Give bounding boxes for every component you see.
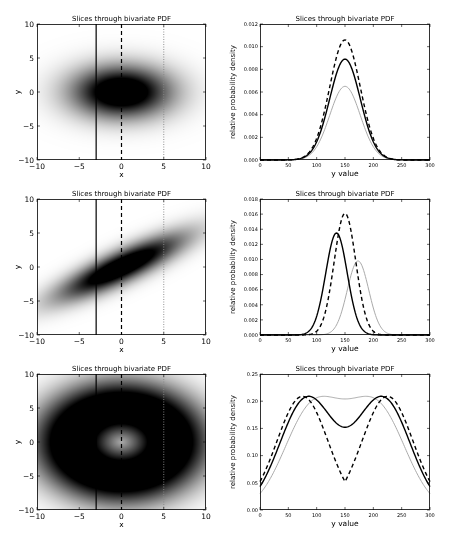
x-tick-label: 150 xyxy=(340,337,350,343)
y-tick-label: 0.15 xyxy=(247,425,258,431)
chart-title: Slices through bivariate PDF xyxy=(72,190,171,198)
y-tick-label: 0.008 xyxy=(244,66,258,72)
x-axis-label: x xyxy=(119,520,124,529)
x-axis-label: y value xyxy=(331,169,359,178)
chart-title: Slices through bivariate PDF xyxy=(296,190,395,198)
y-tick-label: 0.10 xyxy=(247,452,258,458)
y-tick-label: −5 xyxy=(23,297,34,306)
y-axis-label: relative probability density xyxy=(229,220,237,314)
x-tick-label: 300 xyxy=(425,337,435,343)
x-tick-label: 200 xyxy=(369,162,379,168)
x-tick-label: 0 xyxy=(258,512,261,518)
y-tick-label: 0.002 xyxy=(244,134,258,140)
y-tick-label: 0.006 xyxy=(244,286,258,292)
line-chart-panel-row-2: 0501001502002503000.000.050.100.150.200.… xyxy=(228,360,448,538)
x-tick-label: 50 xyxy=(285,337,291,343)
y-tick-label: 0 xyxy=(29,88,34,97)
x-tick-label: 200 xyxy=(369,337,379,343)
heatmap-panel-row-1: −10−50510−10−50510Slices through bivaria… xyxy=(0,185,229,361)
heatmap-panel-row-0: −10−50510−10−50510Slices through bivaria… xyxy=(0,10,229,186)
y-tick-label: −10 xyxy=(18,331,34,340)
y-tick-label: 0.000 xyxy=(244,157,258,163)
x-axis-label: y value xyxy=(331,344,359,353)
y-tick-label: 0.012 xyxy=(244,21,258,27)
x-axis-label: y value xyxy=(331,519,359,528)
y-axis-label: y xyxy=(13,264,22,269)
chart-title: Slices through bivariate PDF xyxy=(296,365,395,373)
y-tick-label: 0 xyxy=(29,263,34,272)
y-tick-label: 0.000 xyxy=(244,332,258,338)
y-tick-label: 0.014 xyxy=(244,226,258,232)
x-axis-label: x xyxy=(119,170,124,179)
x-tick-label: 200 xyxy=(369,512,379,518)
x-tick-label: 0 xyxy=(258,337,261,343)
x-tick-label: 300 xyxy=(425,162,435,168)
x-axis-label: x xyxy=(119,345,124,354)
x-tick-label: 150 xyxy=(340,162,350,168)
y-tick-label: 0.00 xyxy=(247,507,258,513)
x-tick-label: 10 xyxy=(201,162,211,171)
line-chart-panel-row-0: 0501001502002503000.0000.0020.0040.0060.… xyxy=(228,10,448,190)
heatmap-panel-row-2: −10−50510−10−50510Slices through bivaria… xyxy=(0,360,229,536)
x-tick-label: 150 xyxy=(340,512,350,518)
x-tick-label: −5 xyxy=(74,337,85,346)
y-tick-label: 5 xyxy=(29,404,34,413)
y-tick-label: 0 xyxy=(29,438,34,447)
x-tick-label: 0 xyxy=(258,162,261,168)
y-tick-label: −5 xyxy=(23,122,34,131)
y-tick-label: 0.010 xyxy=(244,43,258,49)
y-axis-label: relative probability density xyxy=(229,395,237,489)
y-tick-label: 0.016 xyxy=(244,211,258,217)
y-tick-label: 0.05 xyxy=(247,480,258,486)
x-tick-label: 100 xyxy=(312,512,322,518)
y-tick-label: 0.002 xyxy=(244,317,258,323)
y-axis-label: y xyxy=(13,439,22,444)
y-tick-label: 5 xyxy=(29,229,34,238)
x-tick-label: 250 xyxy=(397,162,407,168)
x-tick-label: 100 xyxy=(312,162,322,168)
line-chart-panel-row-1: 0501001502002503000.0000.0020.0040.0060.… xyxy=(228,185,448,365)
x-tick-label: −5 xyxy=(74,512,85,521)
x-tick-label: 5 xyxy=(161,337,166,346)
y-tick-label: 10 xyxy=(24,195,34,204)
x-tick-label: 300 xyxy=(425,512,435,518)
y-axis-label: y xyxy=(13,89,22,94)
y-tick-label: 0.006 xyxy=(244,89,258,95)
x-tick-label: 10 xyxy=(201,337,211,346)
x-tick-label: 250 xyxy=(397,512,407,518)
chart-title: Slices through bivariate PDF xyxy=(72,15,171,23)
x-tick-label: 10 xyxy=(201,512,211,521)
x-tick-label: 5 xyxy=(161,512,166,521)
y-tick-label: 0.004 xyxy=(244,302,258,308)
y-tick-label: 0.012 xyxy=(244,241,258,247)
x-tick-label: 50 xyxy=(285,162,291,168)
y-tick-label: 10 xyxy=(24,20,34,29)
y-tick-label: −10 xyxy=(18,156,34,165)
x-tick-label: 100 xyxy=(312,337,322,343)
x-tick-label: −5 xyxy=(74,162,85,171)
y-tick-label: 5 xyxy=(29,54,34,63)
y-tick-label: 10 xyxy=(24,370,34,379)
chart-title: Slices through bivariate PDF xyxy=(72,365,171,373)
x-tick-label: 250 xyxy=(397,337,407,343)
y-tick-label: 0.25 xyxy=(247,371,258,377)
y-tick-label: 0.018 xyxy=(244,196,258,202)
x-tick-label: 50 xyxy=(285,512,291,518)
y-tick-label: 0.004 xyxy=(244,111,258,117)
y-axis-label: relative probability density xyxy=(229,45,237,139)
y-tick-label: 0.20 xyxy=(247,398,258,404)
x-tick-label: 5 xyxy=(161,162,166,171)
y-tick-label: −10 xyxy=(18,506,34,515)
chart-title: Slices through bivariate PDF xyxy=(296,15,395,23)
y-tick-label: −5 xyxy=(23,472,34,481)
y-tick-label: 0.010 xyxy=(244,256,258,262)
y-tick-label: 0.008 xyxy=(244,271,258,277)
